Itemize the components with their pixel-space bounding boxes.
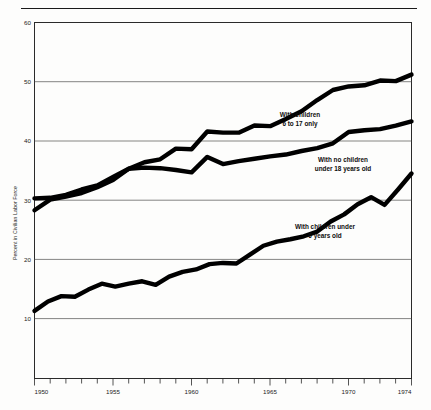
annotation-line1: With children [280,111,321,118]
chart-figure: 60 50 40 30 20 10 Percent in Civilian La… [0,0,431,410]
y-tick-label-30: 30 [24,197,31,204]
x-tick-label-1965: 1965 [263,388,277,395]
annotation-line2: 6 to 17 only [282,120,318,128]
x-tick-label-1950: 1950 [35,388,49,395]
series-line-children-under-6 [35,174,412,311]
y-axis-ticks: 60 50 40 30 20 10 [24,19,31,322]
y-axis-title: Percent in Civilian Labor Force [12,186,18,260]
x-tick-label-1960: 1960 [185,388,199,395]
annotation-children-6-to-17: With children 6 to 17 only [280,111,321,128]
y-tick-label-60: 60 [24,19,31,26]
series-group [35,75,412,311]
x-axis-minor-ticks [50,379,395,384]
x-tick-label-1955: 1955 [106,388,120,395]
series-line-children-6-to-17 [35,75,412,211]
annotation-no-children-under-18: With no children under 18 years old [315,156,372,173]
y-tick-label-20: 20 [24,256,31,263]
y-tick-label-40: 40 [24,137,31,144]
annotation-line1: With no children [318,156,368,163]
gridlines [35,82,412,319]
line-chart: 60 50 40 30 20 10 Percent in Civilian La… [0,0,431,410]
annotation-line1: With children under [295,223,355,230]
y-tick-label-10: 10 [24,315,31,322]
x-tick-label-1974: 1974 [398,388,412,395]
y-tick-label-50: 50 [24,78,31,85]
annotation-line2: 6 years old [308,232,341,240]
annotation-line2: under 18 years old [315,165,372,173]
x-tick-label-1970: 1970 [342,388,356,395]
x-axis-ticks: 1950 1955 1960 1965 1970 1974 [35,388,413,395]
